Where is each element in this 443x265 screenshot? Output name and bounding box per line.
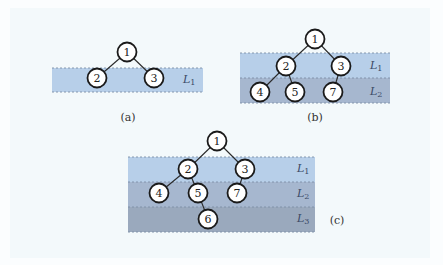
svg-text:2: 2 xyxy=(185,163,192,176)
node-c-4: 4 xyxy=(150,184,169,203)
svg-text:1: 1 xyxy=(124,46,131,59)
caption-a: (a) xyxy=(120,111,135,124)
svg-text:4: 4 xyxy=(156,187,163,200)
svg-text:4: 4 xyxy=(257,86,264,99)
svg-text:2: 2 xyxy=(283,60,290,73)
subfigure-a: 1 2 3 L1 (a) xyxy=(52,43,203,125)
subfigure-b: 1 2 3 4 5 7 L1 L2 (b) xyxy=(240,30,390,125)
node-b-1: 1 xyxy=(306,30,325,49)
subfigure-c: 1 2 3 4 5 7 6 L1 L2 xyxy=(128,132,344,233)
svg-text:3: 3 xyxy=(242,163,249,176)
node-b-7: 7 xyxy=(324,83,343,102)
caption-b: (b) xyxy=(307,111,323,124)
svg-text:3: 3 xyxy=(151,72,158,85)
svg-text:5: 5 xyxy=(195,187,202,200)
node-a-3: 3 xyxy=(145,69,164,88)
node-b-5: 5 xyxy=(286,83,305,102)
band-b-L1 xyxy=(240,53,390,78)
svg-text:6: 6 xyxy=(205,213,212,226)
svg-text:1: 1 xyxy=(312,33,319,46)
node-c-6: 6 xyxy=(199,210,218,229)
svg-text:3: 3 xyxy=(338,60,345,73)
svg-text:1: 1 xyxy=(214,135,221,148)
node-c-5: 5 xyxy=(189,184,208,203)
node-c-1: 1 xyxy=(208,132,227,151)
svg-text:2: 2 xyxy=(94,72,101,85)
caption-c: (c) xyxy=(330,214,345,227)
node-b-4: 4 xyxy=(251,83,270,102)
band-c-L1 xyxy=(128,157,315,182)
svg-text:5: 5 xyxy=(292,86,299,99)
node-c-3: 3 xyxy=(236,160,255,179)
node-b-3: 3 xyxy=(332,57,351,76)
node-c-7: 7 xyxy=(228,184,247,203)
node-a-2: 2 xyxy=(88,69,107,88)
node-b-2: 2 xyxy=(277,57,296,76)
band-c-L3 xyxy=(128,207,315,232)
svg-text:7: 7 xyxy=(234,187,241,200)
node-a-1: 1 xyxy=(118,43,137,62)
node-c-2: 2 xyxy=(179,160,198,179)
svg-text:7: 7 xyxy=(330,86,337,99)
band-a-L1 xyxy=(52,68,203,92)
tree-level-diagram: 1 2 3 L1 (a) 1 2 xyxy=(0,0,443,265)
